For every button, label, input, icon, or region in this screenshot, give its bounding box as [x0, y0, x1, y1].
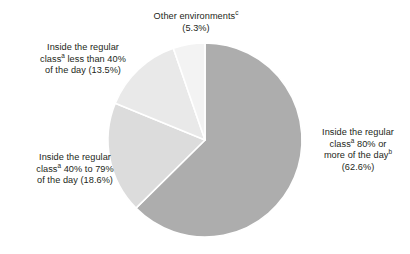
pie-label-80-or-more-line3: more of the dayb — [306, 150, 410, 162]
pie-label-80-or-more: Inside the regular classa 80% or more of… — [306, 127, 410, 173]
pie-label-less-than-40-line2: classa less than 40% — [8, 54, 158, 66]
pie-label-less-than-40: Inside the regular classa less than 40% … — [8, 42, 158, 77]
pie-label-other-environments-value: (5.3%) — [106, 23, 286, 35]
footnote-marker-b: b — [388, 148, 392, 155]
pie-chart-figure: Other environmentsc (5.3%) Inside the re… — [0, 0, 410, 254]
footnote-marker-c: c — [235, 9, 238, 16]
pie-label-other-environments: Other environmentsc (5.3%) — [106, 11, 286, 34]
pie-label-80-or-more-line2: classa 80% or — [306, 139, 410, 151]
pie-label-80-or-more-line1: Inside the regular — [306, 127, 410, 139]
pie-label-40-to-79-line3: of the day (18.6%) — [0, 175, 150, 187]
pie-label-40-to-79-line2: classa 40% to 79% — [0, 164, 150, 176]
pie-label-40-to-79: Inside the regular classa 40% to 79% of … — [0, 152, 150, 187]
pie-label-less-than-40-line3: of the day (13.5%) — [8, 65, 158, 77]
pie-label-80-or-more-value: (62.6%) — [306, 162, 410, 174]
pie-label-less-than-40-line1: Inside the regular — [8, 42, 158, 54]
pie-label-40-to-79-line1: Inside the regular — [0, 152, 150, 164]
pie-label-other-environments-line1: Other environmentsc — [106, 11, 286, 23]
